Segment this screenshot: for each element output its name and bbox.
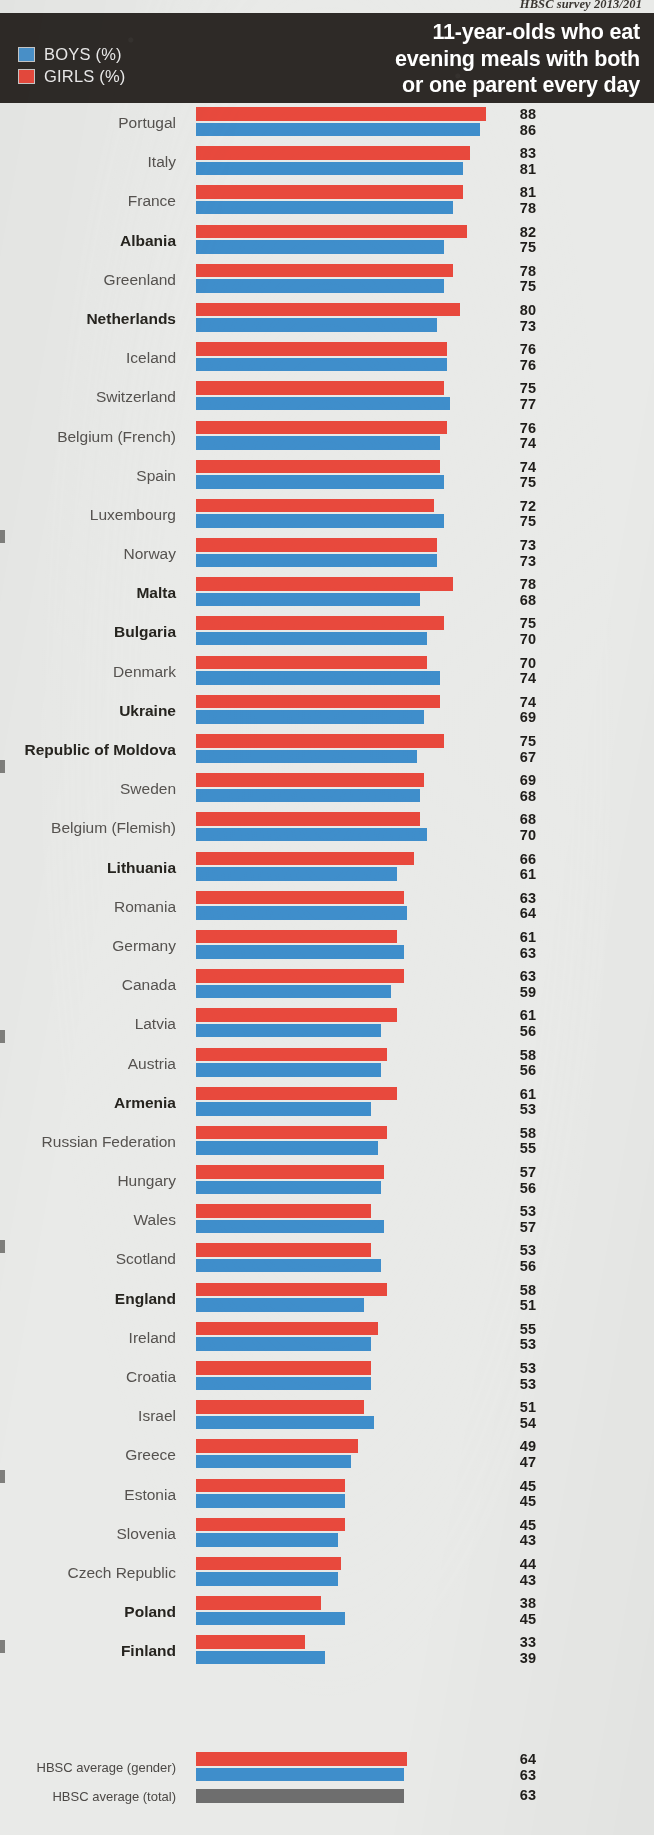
row-values: 6153 bbox=[470, 1083, 536, 1122]
boys-bar bbox=[196, 201, 453, 215]
boys-bar bbox=[196, 1141, 378, 1155]
boys-bar bbox=[196, 1533, 338, 1547]
boys-bar bbox=[196, 554, 437, 568]
country-label: Israel bbox=[0, 1396, 186, 1435]
boys-bar bbox=[196, 514, 444, 528]
chart-row: Slovenia4543 bbox=[0, 1514, 654, 1553]
row-values: 3339 bbox=[470, 1631, 536, 1670]
row-values: 6364 bbox=[470, 887, 536, 926]
girls-bar bbox=[196, 421, 447, 435]
girls-value: 81 bbox=[470, 185, 536, 201]
country-label: Belgium (Flemish) bbox=[0, 808, 186, 847]
country-label: Germany bbox=[0, 926, 186, 965]
girls-value: 69 bbox=[470, 773, 536, 789]
boys-value: 68 bbox=[470, 593, 536, 609]
boys-value: 77 bbox=[470, 397, 536, 413]
girls-bar bbox=[196, 969, 404, 983]
row-values: 7567 bbox=[470, 730, 536, 769]
legend-swatch-girls-icon bbox=[18, 69, 35, 84]
row-values: 5851 bbox=[470, 1279, 536, 1318]
chart-row: Greece4947 bbox=[0, 1435, 654, 1474]
chart-row: Denmark7074 bbox=[0, 652, 654, 691]
row-values: 5756 bbox=[470, 1161, 536, 1200]
girls-bar bbox=[196, 1283, 387, 1297]
girls-value: 73 bbox=[470, 538, 536, 554]
boys-bar bbox=[196, 867, 397, 881]
boys-value: 74 bbox=[470, 671, 536, 687]
girls-value: 66 bbox=[470, 852, 536, 868]
boys-value: 70 bbox=[470, 828, 536, 844]
row-values: 4543 bbox=[470, 1514, 536, 1553]
legend-item-girls: GIRLS (%) bbox=[18, 65, 126, 87]
girls-value: 61 bbox=[470, 930, 536, 946]
page-title-line-1: 11-year-olds who eat bbox=[260, 19, 640, 46]
girls-bar bbox=[196, 1048, 387, 1062]
boys-bar bbox=[196, 906, 407, 920]
row-values: 6163 bbox=[470, 926, 536, 965]
boys-bar bbox=[196, 789, 420, 803]
chart-row: Bulgaria7570 bbox=[0, 612, 654, 651]
boys-bar bbox=[196, 1651, 325, 1665]
boys-value: 75 bbox=[470, 475, 536, 491]
girls-bar bbox=[196, 225, 467, 239]
girls-bar bbox=[196, 773, 424, 787]
country-label: Albania bbox=[0, 221, 186, 260]
girls-value: 82 bbox=[470, 225, 536, 241]
page-edge-mark bbox=[0, 1240, 5, 1253]
country-label: Greenland bbox=[0, 260, 186, 299]
girls-value: 76 bbox=[470, 421, 536, 437]
boys-bar bbox=[196, 436, 440, 450]
boys-bar bbox=[196, 279, 444, 293]
girls-bar bbox=[196, 812, 420, 826]
chart-row: Israel5154 bbox=[0, 1396, 654, 1435]
row-values: 7868 bbox=[470, 573, 536, 612]
girls-bar bbox=[196, 930, 397, 944]
average-gender-row: HBSC average (gender) 64 63 bbox=[0, 1748, 654, 1787]
girls-bar bbox=[196, 695, 440, 709]
chart-row: Italy8381 bbox=[0, 142, 654, 181]
boys-bar bbox=[196, 1416, 374, 1430]
girls-bar bbox=[196, 656, 427, 670]
boys-bar bbox=[196, 1494, 345, 1508]
row-values: 7674 bbox=[470, 417, 536, 456]
chart-row: Germany6163 bbox=[0, 926, 654, 965]
girls-value: 51 bbox=[470, 1400, 536, 1416]
boys-value: 47 bbox=[470, 1455, 536, 1471]
country-label: Bulgaria bbox=[0, 612, 186, 651]
boys-bar bbox=[196, 632, 427, 646]
boys-value: 67 bbox=[470, 750, 536, 766]
country-label: Malta bbox=[0, 573, 186, 612]
country-label: France bbox=[0, 181, 186, 220]
row-values: 6870 bbox=[470, 808, 536, 847]
girls-bar bbox=[196, 1596, 321, 1610]
chart-row: Belgium (Flemish)6870 bbox=[0, 808, 654, 847]
row-values: 6968 bbox=[470, 769, 536, 808]
girls-value: 53 bbox=[470, 1204, 536, 1220]
boys-bar bbox=[196, 1298, 364, 1312]
country-label: Belgium (French) bbox=[0, 417, 186, 456]
girls-bar bbox=[196, 1322, 378, 1336]
average-gender-boys-bar bbox=[196, 1768, 404, 1782]
boys-value: 75 bbox=[470, 279, 536, 295]
country-label: Wales bbox=[0, 1200, 186, 1239]
boys-bar bbox=[196, 1455, 351, 1469]
chart-row: Czech Republic4443 bbox=[0, 1553, 654, 1592]
boys-value: 75 bbox=[470, 514, 536, 530]
boys-value: 73 bbox=[470, 319, 536, 335]
chart-row: Canada6359 bbox=[0, 965, 654, 1004]
row-values: 7577 bbox=[470, 377, 536, 416]
country-label: Sweden bbox=[0, 769, 186, 808]
page-edge-mark bbox=[0, 760, 5, 773]
girls-value: 68 bbox=[470, 812, 536, 828]
country-label: Denmark bbox=[0, 652, 186, 691]
girls-value: 53 bbox=[470, 1361, 536, 1377]
country-label: Greece bbox=[0, 1435, 186, 1474]
boys-value: 61 bbox=[470, 867, 536, 883]
chart-row: Scotland5356 bbox=[0, 1239, 654, 1278]
boys-value: 56 bbox=[470, 1181, 536, 1197]
girls-bar bbox=[196, 538, 437, 552]
row-values: 6661 bbox=[470, 848, 536, 887]
boys-bar bbox=[196, 1181, 381, 1195]
boys-value: 69 bbox=[470, 710, 536, 726]
girls-bar bbox=[196, 852, 414, 866]
